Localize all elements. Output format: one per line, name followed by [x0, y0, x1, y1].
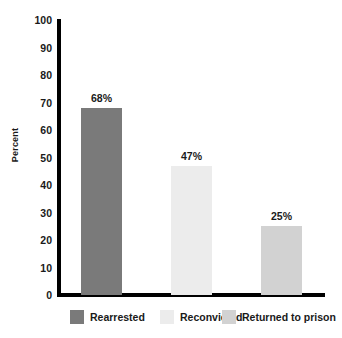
legend-swatch-icon — [160, 310, 174, 324]
y-tick-label: 50 — [24, 153, 52, 163]
y-tick-label: 30 — [24, 208, 52, 218]
legend-item-returned-to-prison[interactable]: Returned to prison — [222, 306, 336, 328]
bar-value-label: 25% — [252, 211, 312, 222]
bar-rearrested[interactable] — [81, 108, 122, 295]
chart-legend: RearrestedReconvictedReturned to prison — [0, 306, 342, 330]
legend-swatch-icon — [70, 310, 84, 324]
y-tick-label: 100 — [24, 15, 52, 25]
legend-label: Returned to prison — [242, 311, 336, 323]
y-tick-label: 0 — [24, 290, 52, 300]
y-tick-label: 90 — [24, 43, 52, 53]
y-tick-label: 80 — [24, 70, 52, 80]
bar-reconvicted[interactable] — [171, 166, 212, 295]
bar-returned-to-prison[interactable] — [261, 226, 302, 295]
legend-item-rearrested[interactable]: Rearrested — [70, 306, 145, 328]
y-axis-title: Percent — [10, 115, 20, 175]
y-tick-label: 40 — [24, 180, 52, 190]
bar-value-label: 68% — [72, 93, 132, 104]
y-tick-label: 20 — [24, 235, 52, 245]
y-tick-label: 60 — [24, 125, 52, 135]
bar-chart: Percent 1009080706050403020100 68%47%25%… — [0, 0, 342, 338]
bar-value-label: 47% — [162, 151, 222, 162]
y-tick-label: 70 — [24, 98, 52, 108]
y-tick-label: 10 — [24, 263, 52, 273]
y-axis-tick-labels: 1009080706050403020100 — [22, 0, 52, 338]
legend-swatch-icon — [222, 310, 236, 324]
plot-area: 68%47%25% — [60, 20, 325, 295]
legend-label: Rearrested — [90, 311, 145, 323]
